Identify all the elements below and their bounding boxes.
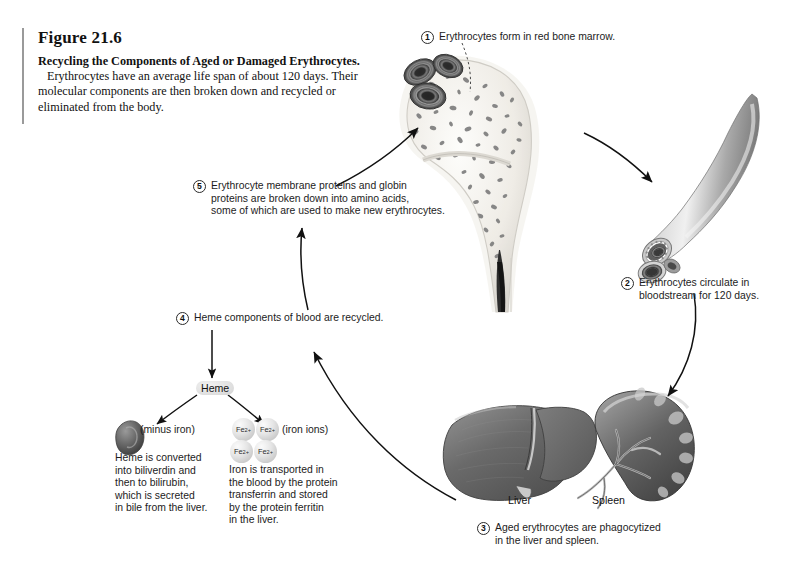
step-text-3: Aged erythrocytes are phagocytized in th… [495,522,661,547]
step-text-2: Erythrocytes circulate in bloodstream fo… [639,277,759,302]
step-number-5: 5 [193,180,206,193]
erythrocyte-cluster-illustration [399,50,466,111]
step-number-1: 1 [421,31,434,44]
caption-title: Recycling the Components of Aged or Dama… [38,54,360,68]
callout-step-5: 5 Erythrocyte membrane proteins and glob… [193,180,453,218]
arrow-vessel-to-spleen [668,294,696,396]
callout-step-2: 2 Erythrocytes circulate in bloodstream … [621,277,771,302]
iron-ion-4: Fe2+ [254,440,277,463]
figure-21-6: Figure 21.6 Recycling the Components of … [0,0,788,577]
blood-vessel-illustration [636,94,759,286]
iron-description: Iron is transported in the blood by the … [229,464,354,527]
step-text-5: Erythrocyte membrane proteins and globin… [211,180,445,218]
caption-block: Figure 21.6 Recycling the Components of … [38,28,368,115]
callout-step-1: 1 Erythrocytes form in red bone marrow. [421,31,641,44]
heme-label: Heme [196,381,234,395]
step-text-1: Erythrocytes form in red bone marrow. [439,31,615,44]
arrow-marrow-to-vessel [584,133,652,182]
iron-ion-symbol: Fe [260,425,269,434]
leader-line-marrow [462,43,471,92]
iron-ion-charge: 2+ [243,449,249,455]
iron-ion-symbol: Fe [236,425,245,434]
liver-label: Liver [508,494,531,506]
iron-ions-label: (iron ions) [282,424,328,437]
callout-step-4: 4 Heme components of blood are recycled. [176,312,456,325]
iron-ion-symbol: Fe [234,447,243,456]
liver-illustration [443,406,596,501]
iron-ion-symbol: Fe [258,447,267,456]
spleen-illustration [578,386,694,508]
iron-ion-charge: 2+ [269,427,275,433]
iron-ion-2: Fe2+ [256,418,279,441]
biliverdin-description: Heme is converted into biliverdin and th… [115,452,225,515]
step-number-3: 3 [477,522,490,535]
figure-number: Figure 21.6 [38,28,368,48]
iron-ion-charge: 2+ [245,427,251,433]
iron-ion-charge: 2+ [267,449,273,455]
caption-rule [22,28,24,124]
step-number-2: 2 [621,277,634,290]
caption-text: Recycling the Components of Aged or Dama… [38,54,368,115]
arrow-step4-to-step5 [301,228,308,310]
arrow-step5-to-marrow [336,128,418,186]
caption-body: Erythrocytes have an average life span o… [38,69,358,113]
minus-iron-label: (minus iron) [140,424,195,437]
callout-step-3: 3 Aged erythrocytes are phagocytized in … [477,522,727,547]
step-number-4: 4 [176,312,189,325]
step-text-4: Heme components of blood are recycled. [194,312,383,325]
iron-ion-3: Fe2+ [230,440,253,463]
iron-ion-1: Fe2+ [232,418,255,441]
spleen-label: Spleen [592,494,625,506]
arrow-heme-to-biliverdin [157,395,197,424]
